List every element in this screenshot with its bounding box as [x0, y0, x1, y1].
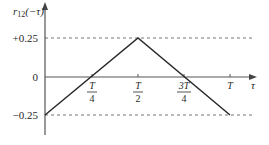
- svg-text:4: 4: [182, 93, 187, 104]
- x-axis-label: τ: [251, 79, 256, 91]
- svg-text:T: T: [89, 80, 96, 91]
- svg-text:2: 2: [136, 93, 141, 104]
- xtick-3t4: 3T 4: [177, 80, 191, 104]
- svg-text:4: 4: [90, 93, 95, 104]
- ytick-zero: 0: [33, 71, 39, 83]
- y-axis-label: r12(−τ): [13, 5, 44, 19]
- ytick-upper: +0.25: [13, 32, 39, 44]
- ytick-lower: −0.25: [13, 109, 39, 121]
- xtick-t: T: [227, 80, 234, 91]
- xtick-t4: T 4: [87, 80, 97, 104]
- svg-text:3T: 3T: [178, 80, 191, 91]
- xtick-t2: T 2: [133, 80, 143, 104]
- svg-text:T: T: [135, 80, 142, 91]
- chart: r12(−τ) +0.25 0 −0.25 T 4 T 2 3T 4 T τ: [0, 0, 269, 145]
